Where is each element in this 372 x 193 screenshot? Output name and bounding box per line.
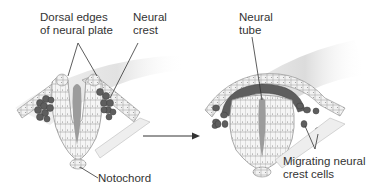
notochord-right	[253, 167, 271, 177]
label-migrating-crest-cells: Migrating neural crest cells	[283, 155, 365, 180]
transition-arrow	[143, 133, 200, 140]
notochord-leader	[80, 167, 98, 178]
label-neural-tube: Neural tube	[239, 11, 273, 36]
neural-crest-diagram: Dorsal edges of neural plate Neural cres…	[0, 0, 372, 193]
label-notochord: Notochord	[98, 172, 151, 185]
label-dorsal-edges: Dorsal edges of neural plate	[40, 11, 113, 36]
notochord	[70, 159, 86, 169]
left-embryo-section	[15, 43, 185, 178]
label-neural-crest: Neural crest	[133, 11, 167, 36]
